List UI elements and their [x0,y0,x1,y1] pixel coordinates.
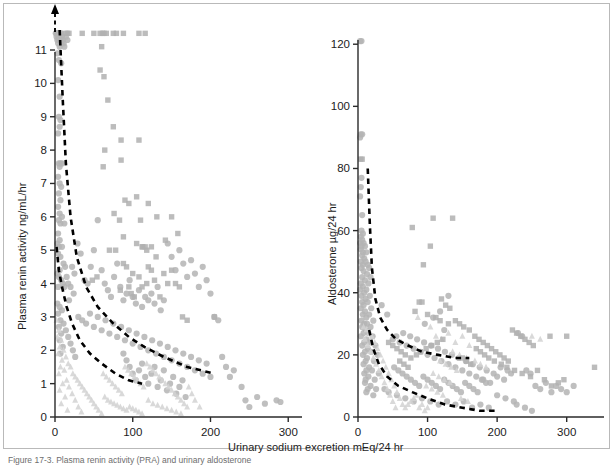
data-point [145,297,151,303]
data-point [231,367,237,373]
data-point [55,310,61,316]
data-point [155,402,161,408]
data-point [393,404,399,410]
data-point [452,339,458,345]
data-point [127,277,133,283]
data-point [535,368,540,373]
data-point [537,386,543,392]
data-point [145,381,151,387]
data-point [108,294,114,300]
data-point [142,244,147,249]
y-axis-label-right: Aldosterone µg/24 hr [326,203,338,305]
data-point [184,274,190,280]
data-point [114,260,120,266]
x-axis-label: Urinary sodium excretion mEq/24 hr [228,441,403,453]
data-point [408,355,413,360]
data-point [100,370,106,376]
y-tick-label: 3 [41,311,47,323]
data-point [101,164,106,169]
data-point [59,244,65,250]
data-point [55,230,61,236]
data-point [466,370,472,376]
data-point [439,296,444,301]
data-point [499,361,504,366]
data-point [173,409,179,415]
y-tick-label: 60 [337,225,350,237]
data-point [134,241,139,246]
data-point [483,380,489,386]
data-point [556,380,561,385]
data-point [58,400,64,406]
data-point [189,390,195,396]
data-point [358,38,364,44]
data-point [529,333,535,339]
data-point [149,268,154,273]
data-point [99,267,105,273]
data-point [57,124,63,130]
data-point [169,407,175,413]
data-point [482,352,487,357]
data-point [63,353,69,359]
figure-caption: Figure 17-3. Plasma renin activity (PRA)… [8,455,608,465]
data-point [102,394,108,400]
data-point [186,384,192,390]
data-point [111,274,117,280]
panel-aldosterone: 0204060801001200100200300 [310,0,615,445]
data-point [419,299,424,304]
data-point [548,389,554,395]
data-point [571,383,577,389]
data-point [164,405,170,411]
y-tick-label: 100 [331,100,350,112]
data-point [372,377,378,383]
data-point [151,300,157,306]
data-point [435,340,440,345]
data-point [61,44,67,50]
data-point [138,217,143,222]
data-point [430,370,436,376]
data-point [134,330,140,336]
data-point [146,201,151,206]
data-point [428,243,433,248]
data-point [150,400,156,406]
data-point [440,337,445,342]
data-point [402,395,408,401]
data-point [56,190,62,196]
y-tick-label: 6 [41,211,47,223]
data-point [176,384,182,390]
data-point [494,374,500,380]
data-point [111,211,116,216]
data-point [91,324,97,330]
data-point [360,361,366,367]
data-point [440,392,446,398]
data-point [359,156,364,161]
data-point [62,394,68,400]
data-point [134,194,139,199]
data-point [163,237,168,242]
data-point [362,380,368,386]
data-point [117,217,122,222]
data-point [126,327,132,333]
data-point [69,264,75,270]
data-point [169,268,174,273]
data-point [132,294,137,299]
plasma-renin-scatter-plot: 012345678910110100200300 [0,0,310,445]
data-point [564,389,570,395]
data-point [381,379,387,385]
data-point [145,397,151,403]
y-tick-label: 20 [337,349,350,361]
data-point [242,397,248,403]
data-point [126,284,131,289]
data-point [67,284,73,290]
data-point [184,318,189,323]
data-point [155,284,161,290]
data-point [136,367,142,373]
data-point [427,323,433,329]
data-point [66,31,71,36]
data-point [180,260,186,266]
data-point [121,31,126,36]
y-tick-label: 4 [41,278,48,290]
data-point [592,365,597,370]
data-point [113,247,118,252]
data-point [415,314,421,320]
data-point [447,306,452,311]
